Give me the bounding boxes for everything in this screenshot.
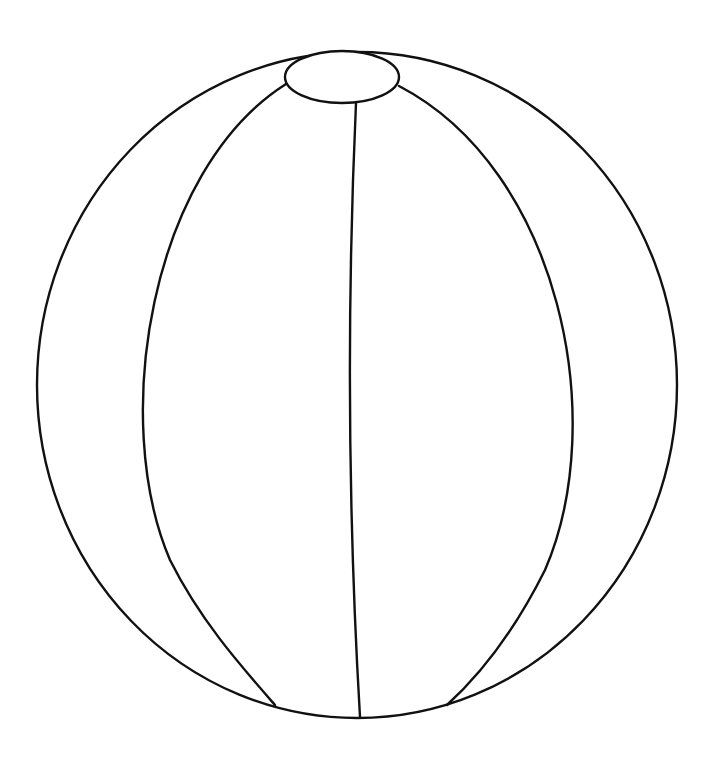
left-outer-seam (143, 84, 286, 705)
beach-ball-icon (0, 0, 726, 763)
beach-ball-drawing (0, 0, 726, 763)
top-valve-cap (285, 51, 399, 103)
right-outer-seam (399, 86, 573, 705)
center-seam (350, 103, 360, 717)
ball-outline (37, 52, 677, 718)
